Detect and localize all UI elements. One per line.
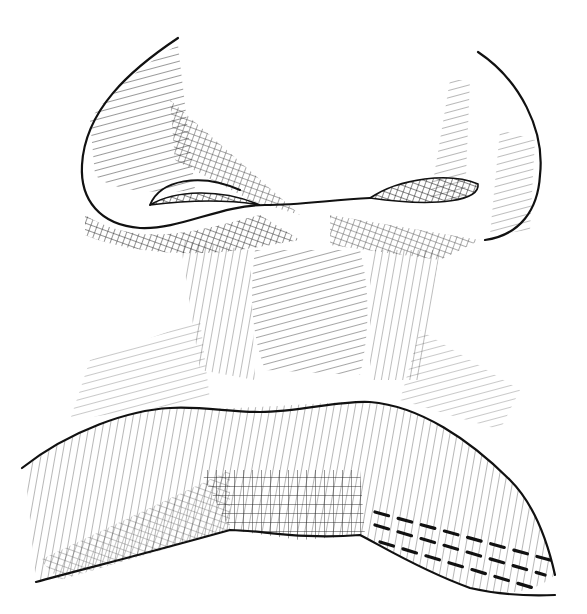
nose bbox=[82, 38, 541, 240]
philtrum bbox=[70, 215, 520, 430]
nose-lip-drawing bbox=[0, 0, 587, 614]
illustration-canvas bbox=[0, 0, 587, 614]
upper-lip bbox=[22, 402, 555, 596]
